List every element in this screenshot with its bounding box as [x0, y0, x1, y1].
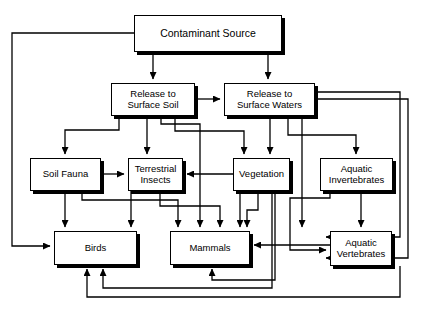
connector-vegetation-to-mammals-2	[247, 191, 258, 227]
node-label: Contaminant Source	[158, 28, 258, 40]
connector-insects-to-mammals	[160, 191, 220, 227]
node-vegetation[interactable]: Vegetation	[233, 158, 290, 191]
connector-waters-to-invertebrates	[288, 116, 356, 154]
node-release-surface-soil[interactable]: Release to Surface Soil	[111, 83, 195, 116]
node-birds[interactable]: Birds	[54, 231, 137, 265]
node-label: Release to Surface Soil	[125, 89, 180, 110]
node-label: Release to Surface Waters	[235, 89, 304, 110]
node-label: Vegetation	[237, 169, 286, 180]
node-terrestrial-insects[interactable]: Terrestrial Insects	[128, 158, 183, 191]
node-aquatic-invertebrates[interactable]: Aquatic Invertebrates	[320, 158, 393, 191]
node-label: Aquatic Vertebrates	[335, 238, 388, 259]
connector-soil-to-vegetation	[175, 116, 244, 154]
node-release-surface-waters[interactable]: Release to Surface Waters	[224, 83, 315, 116]
connector-vertebrates-to-birds	[87, 266, 400, 297]
connector-soil-to-soilfauna	[65, 116, 119, 154]
node-label: Terrestrial Insects	[133, 164, 179, 185]
node-label: Soil Fauna	[41, 169, 90, 180]
node-mammals[interactable]: Mammals	[170, 231, 250, 265]
node-label: Aquatic Invertebrates	[327, 164, 386, 185]
flow-diagram-canvas: Contaminant Source Release to Surface So…	[0, 0, 430, 316]
node-label: Birds	[83, 243, 109, 254]
node-label: Mammals	[187, 243, 232, 254]
node-contaminant-source[interactable]: Contaminant Source	[134, 15, 282, 52]
node-aquatic-vertebrates[interactable]: Aquatic Vertebrates	[330, 231, 392, 266]
node-soil-fauna[interactable]: Soil Fauna	[30, 158, 101, 191]
connector-source-to-birds	[12, 33, 134, 246]
connector-invertebrates-to-vertebrates-2	[290, 191, 330, 250]
connector-soilfauna-to-mammals	[82, 191, 178, 227]
